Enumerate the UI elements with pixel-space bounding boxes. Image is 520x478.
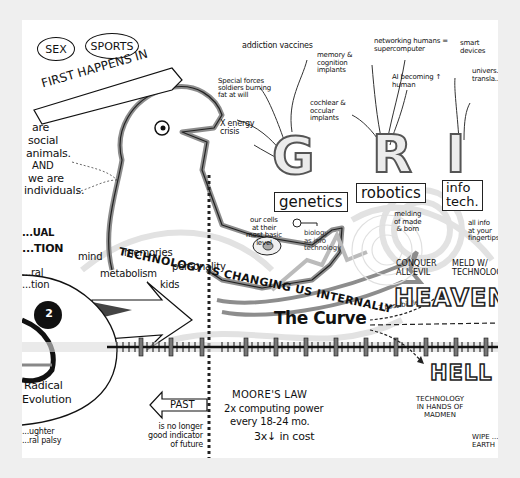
genetics-sub-left-4: level (246, 240, 282, 248)
genetics-sub-left: our cells at their most basic level (246, 217, 282, 248)
heaven-note-conquer: CONQUER ALL EVIL (396, 260, 436, 278)
moores-law-line-1: 2x computing power (224, 404, 323, 414)
the-curve-title: The Curve (274, 310, 366, 327)
bubble-kids: kids (160, 280, 179, 290)
bottom-left-line-1: ...ughter (22, 428, 54, 436)
social-note-line-2: social (28, 135, 58, 146)
annotation-networking-humans: networking humans = supercomputer (374, 38, 464, 53)
social-note-line-5: we are (28, 173, 64, 184)
partial-left-line-2: ...TION (22, 243, 63, 254)
heaven-note-meld: MELD W/ TECHNOLOGY (452, 260, 498, 278)
genetics-label-box: genetics (274, 192, 348, 212)
sketchnote-card: SEX SPORTS FIRST HAPPENS IN are social a… (22, 20, 498, 458)
moores-law-line-3: 3x↓ in cost (254, 431, 314, 442)
social-note-line-3: animals. (26, 148, 71, 159)
past-note-line-3: of future (148, 440, 203, 449)
past-note-line-1: is no longer (148, 422, 203, 431)
bubble-personality: personality (172, 262, 226, 272)
past-label: PAST (170, 400, 195, 410)
infotech-label-line-2: tech. (446, 195, 479, 209)
letter-g: G (272, 130, 315, 182)
partial-left2-line-1: ...ral (22, 268, 43, 278)
genetics-sub-right: biology as info technology (304, 230, 341, 253)
infotech-label-box: info tech. (442, 180, 483, 211)
social-note-line-6: individuals. (24, 185, 84, 196)
robotics-label-box: robotics (356, 183, 426, 203)
moores-law-line-2: every 18-24 mo. (230, 417, 310, 427)
hell-note-madmen: TECHNOLOGY IN HANDS OF MADMEN (412, 395, 468, 419)
bubble-metabolism: metabolism (100, 269, 157, 279)
hell-title: HELL (430, 363, 493, 384)
bottom-left-line-2: ...ral palsy (22, 437, 61, 445)
hell-note-wipe-earth: WIPE ... EARTH (472, 433, 498, 449)
infotech-sub-3: fingertips (468, 235, 498, 243)
infotech-label-line-1: info (446, 181, 479, 195)
sports-label: SPORTS (91, 40, 134, 53)
annotation-universal-translator: univers... transla... (472, 68, 498, 83)
bubble-mind: mind (78, 252, 102, 262)
past-note: is no longer good indicator of future (148, 422, 203, 450)
annotation-ai-becoming-human: AI becoming ↑ human (392, 74, 452, 89)
partial-left2-line-2: ...tion (22, 280, 49, 290)
robotics-sub-3: & born (394, 226, 421, 234)
letter-i: I (446, 128, 465, 180)
annotation-energy-crisis: X energy crisis (220, 120, 264, 136)
infotech-sub: all info at your fingertips (468, 220, 498, 243)
letter-r: R (372, 128, 412, 180)
social-note-line-4: AND (32, 161, 53, 171)
radical-line-2: Evolution (22, 394, 72, 405)
bubble-memories: memories (124, 248, 172, 258)
sex-bubble: SEX (37, 37, 75, 61)
sex-label: SEX (45, 43, 66, 56)
annotation-addiction-vaccines: addiction vaccines (242, 42, 313, 50)
annotation-smart-devices: smart devices (460, 40, 498, 55)
social-note-line-1: are (32, 122, 49, 133)
number-two-badge: 2 (42, 307, 56, 321)
heaven-title: HEAVEN (394, 286, 498, 310)
genetics-sub-right-3: technology (304, 245, 341, 253)
radical-line-1: Radical (24, 380, 63, 391)
annotation-memory-implants: memory & cognition implants (317, 52, 373, 75)
annotation-cochlear-implants: cochlear & occular implants (310, 100, 360, 123)
robotics-sub: melding of made & born (394, 211, 421, 234)
annotation-special-forces: Special forces soldiers burning fat at w… (218, 78, 278, 99)
moores-law-title: MOORE'S LAW (232, 390, 307, 400)
past-note-line-2: good indicator (148, 431, 203, 440)
partial-left-line-1: ...UAL (22, 228, 54, 238)
